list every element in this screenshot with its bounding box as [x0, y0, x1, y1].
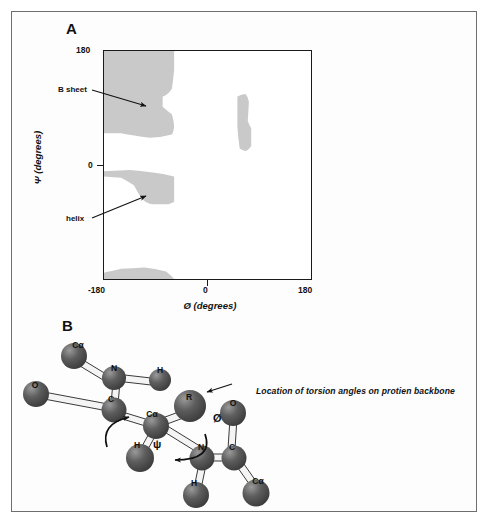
atom-label-o-left: O	[32, 380, 39, 390]
y-tick-label-0: 0	[88, 160, 93, 170]
atom-label-h-upper-right: H	[157, 365, 163, 375]
annotation-label-b-sheet: B sheet	[58, 85, 87, 94]
region-bottom-strip	[104, 268, 174, 279]
x-tick-label-0: 0	[203, 285, 208, 295]
atom-label-calpha-upper-left: Cα	[72, 340, 84, 350]
psi-angle-symbol: ψ	[153, 438, 161, 450]
atom-label-o-lower: O	[230, 398, 237, 408]
panel-a-label: A	[66, 20, 77, 37]
y-tick-mark-0	[97, 165, 104, 166]
bond-o-c	[44, 392, 108, 411]
region-left-handed-helix	[237, 94, 251, 151]
atom-group	[23, 343, 270, 508]
atom-label-h-lower: H	[191, 478, 197, 488]
atom-label-n-upper: N	[111, 363, 117, 373]
molecule-svg: Cα N H C O Cα R H N C O H Cα	[0, 320, 488, 522]
y-tick-label-180: 180	[76, 45, 90, 55]
atom-label-c-lower: C	[229, 442, 235, 452]
atom-label-n-lower: N	[198, 442, 204, 452]
annotation-label-helix: helix	[66, 214, 84, 223]
figure-root: A 180 0 -180 0 180 Ψ (degrees) Ø (degree…	[0, 0, 488, 522]
phi-angle-symbol: Ø	[213, 412, 222, 424]
ramachandran-regions-svg	[104, 51, 311, 279]
panel-b-label: B	[62, 317, 73, 334]
ramachandran-plot-area	[103, 50, 312, 280]
panel-b-backbone-diagram: Cα N H C O Cα R H N C O H Cα	[0, 320, 488, 522]
x-tick-label-minus-180: -180	[88, 285, 105, 295]
atom-label-calpha-lower-right: Cα	[252, 476, 264, 486]
torsion-caption: Location of torsion angles on protien ba…	[256, 386, 455, 396]
atom-label-r-center: R	[186, 392, 192, 402]
atom-label-c-upper: C	[108, 394, 114, 404]
region-helix	[104, 170, 174, 204]
atom-label-h-center: H	[134, 440, 140, 450]
panel-a-ramachandran: A 180 0 -180 0 180 Ψ (degrees) Ø (degree…	[0, 0, 488, 320]
arrow-to-caption	[207, 384, 232, 392]
y-axis-title: Ψ (degrees)	[32, 108, 43, 208]
region-b-sheet	[104, 51, 174, 138]
x-tick-label-180: 180	[298, 285, 312, 295]
atom-label-calpha-center: Cα	[146, 409, 158, 419]
x-axis-title: Ø (degrees)	[140, 300, 280, 311]
